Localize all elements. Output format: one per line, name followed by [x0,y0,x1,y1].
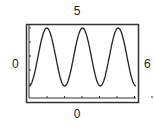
bottom-label: 0 [74,108,81,120]
plot-frame [27,25,139,103]
data-curve [29,28,136,86]
top-label: 5 [74,5,81,17]
right-label: 6 [144,58,151,70]
left-label: 0 [12,58,19,70]
